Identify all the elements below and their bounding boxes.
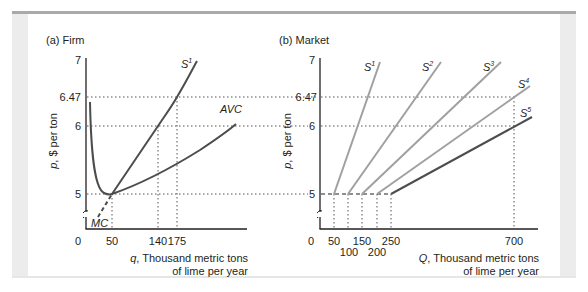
firm-mc-dashed-curve: [98, 194, 112, 217]
market-s1-curve: [334, 62, 380, 194]
market-s4-curve: [377, 86, 530, 194]
firm-x-axis-label-line2: of lime per year: [172, 265, 248, 277]
market-x-axis-label-line2: of lime per year: [463, 265, 539, 277]
firm-y-tick-7: 7: [75, 54, 81, 66]
market-panel: (b) Market p, $ per ton 7 6.47 6 5 S1 S2…: [279, 34, 539, 277]
firm-x-axis-label-line1: q, Thousand metric tons: [130, 252, 248, 264]
market-x-tick-100: 100: [340, 246, 358, 258]
market-panel-title: (b) Market: [279, 34, 329, 46]
chart-figure: (a) Firm p, $ per ton 7 6.47 6 5 S1 AVC …: [0, 0, 588, 292]
firm-x-tick-50: 50: [106, 235, 118, 247]
firm-avc-label: AVC: [219, 103, 242, 115]
market-x-axis-label-line1: Q, Thousand metric tons: [419, 252, 540, 264]
market-x-tick-700: 700: [505, 235, 523, 247]
firm-s1-curve: [112, 61, 197, 194]
firm-y-tick-6.47: 6.47: [60, 91, 81, 103]
firm-axis-break-gap: [84, 212, 88, 217]
market-s3-curve: [362, 62, 501, 194]
firm-y-tick-6: 6: [75, 120, 81, 132]
market-y-tick-7: 7: [309, 54, 315, 66]
firm-x-tick-175: 175: [168, 235, 186, 247]
firm-mc-label: MC: [91, 217, 108, 229]
market-x-tick-200: 200: [368, 246, 386, 258]
firm-x-tick-0: 0: [75, 235, 81, 247]
market-y-tick-6: 6: [309, 120, 315, 132]
firm-panel-title: (a) Firm: [46, 34, 85, 46]
market-s5-label: S5: [520, 106, 531, 119]
market-y-tick-5: 5: [309, 188, 315, 200]
firm-s1-label: S1: [181, 57, 192, 70]
market-y-axis-label: p, $ per ton: [281, 113, 293, 170]
firm-avc-curve: [90, 102, 236, 195]
firm-y-tick-5: 5: [75, 188, 81, 200]
market-s2-label: S2: [422, 60, 433, 73]
market-x-tick-0: 0: [308, 235, 314, 247]
market-s1-label: S1: [364, 60, 375, 73]
market-axis-break-gap: [318, 212, 322, 217]
market-x-tick-50: 50: [328, 235, 340, 247]
firm-y-axis-label: p, $ per ton: [47, 113, 59, 170]
firm-panel: (a) Firm p, $ per ton 7 6.47 6 5 S1 AVC …: [46, 34, 316, 277]
market-y-tick-6.47: 6.47: [296, 91, 317, 103]
market-s5-curve: [391, 117, 532, 194]
firm-x-tick-140: 140: [149, 235, 167, 247]
